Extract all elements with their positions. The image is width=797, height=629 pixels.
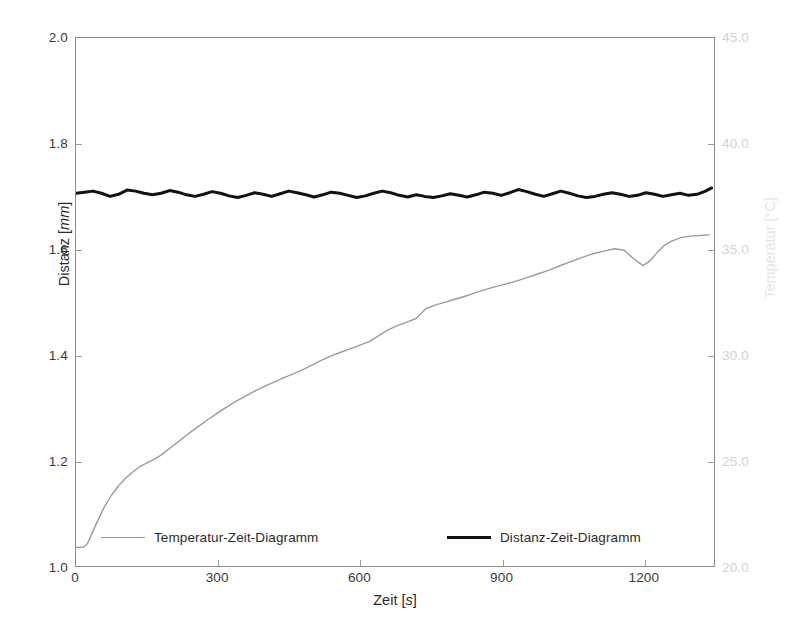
series-line-temperatur [76, 235, 709, 548]
x-axis-tick-label: 600 [348, 570, 371, 585]
x-axis-tick-label: 900 [490, 570, 513, 585]
legend-label-temperatur: Temperatur-Zeit-Diagramm [154, 530, 318, 545]
y-axis-left-tickmark [76, 250, 82, 251]
y-axis-right-tick-label: 35.0 [722, 242, 749, 257]
y-axis-left-tick-label: 1.2 [49, 454, 68, 469]
y-axis-left-title-bracket-open: [ [56, 230, 72, 234]
x-axis-tickmark [645, 560, 646, 566]
series-line-distanz [76, 188, 712, 198]
y-axis-left-tick-label: 2.0 [49, 30, 68, 45]
y-axis-left-tick-label: 1.4 [49, 348, 68, 363]
figure-canvas: 1.01.21.41.61.82.0 20.025.030.035.040.04… [0, 0, 797, 629]
y-axis-right-tick-label: 45.0 [722, 30, 749, 45]
y-axis-right-title-unit: °C [762, 201, 778, 217]
legend-item-temperatur[interactable]: Temperatur-Zeit-Diagramm [101, 527, 318, 547]
y-axis-right-tick-label: 20.0 [722, 560, 749, 575]
x-axis-tick-label: 0 [71, 570, 79, 585]
y-axis-right-title-bracket-close: ] [762, 197, 778, 201]
y-axis-left-title-name: Distanz [56, 238, 72, 286]
chart-legend: Temperatur-Zeit-Diagramm Distanz-Zeit-Di… [75, 527, 715, 547]
legend-label-distanz: Distanz-Zeit-Diagramm [500, 530, 641, 545]
y-axis-right-tick-label: 40.0 [722, 136, 749, 151]
y-axis-right-tick-label: 25.0 [722, 454, 749, 469]
y-axis-left-title: Distanz [mm] [56, 174, 72, 314]
x-axis-ticks: 03006009001200 [75, 570, 715, 592]
y-axis-right-title: Temperatur [°C] [762, 178, 778, 318]
legend-line-distanz-icon [447, 536, 491, 539]
y-axis-right-tickmark [708, 144, 714, 145]
plot-area [75, 37, 715, 567]
x-axis-tickmark [218, 560, 219, 566]
y-axis-left-tick-label: 1.8 [49, 136, 68, 151]
y-axis-right-title-name: Temperatur [762, 226, 778, 299]
x-axis-title-unit: s [405, 592, 412, 608]
y-axis-left-tickmark [76, 462, 82, 463]
x-axis-tick-label: 1200 [628, 570, 659, 585]
y-axis-right-tickmark [708, 462, 714, 463]
chart-curves [76, 38, 714, 566]
y-axis-right-tick-label: 30.0 [722, 348, 749, 363]
x-axis-tickmark [503, 560, 504, 566]
legend-line-temperatur-icon [101, 537, 145, 538]
y-axis-left-tickmark [76, 356, 82, 357]
x-axis-title-bracket-close: ] [413, 592, 417, 608]
y-axis-right-title-bracket-open: [ [762, 217, 778, 221]
y-axis-right-ticks: 20.025.030.035.040.045.0 [722, 37, 788, 567]
x-axis-tick-label: 300 [206, 570, 229, 585]
x-axis-title-name: Zeit [373, 592, 397, 608]
x-axis-title: Zeit [s] [75, 592, 715, 608]
y-axis-right-tickmark [708, 250, 714, 251]
legend-item-distanz[interactable]: Distanz-Zeit-Diagramm [447, 527, 641, 547]
y-axis-left-tick-label: 1.0 [49, 560, 68, 575]
y-axis-left-title-unit: mm [56, 206, 72, 230]
y-axis-left-tickmark [76, 144, 82, 145]
series-group [76, 188, 712, 547]
y-axis-right-tickmark [708, 356, 714, 357]
y-axis-left-title-bracket-close: ] [56, 202, 72, 206]
x-axis-tickmark [360, 560, 361, 566]
